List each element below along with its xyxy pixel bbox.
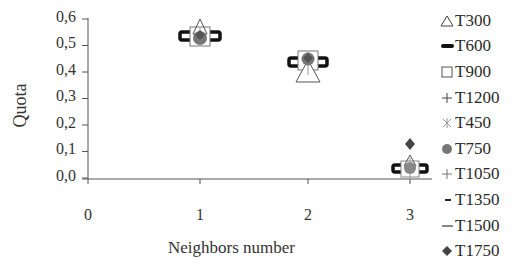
legend-label: T900 [455, 62, 491, 82]
y-tick-label: 0,6 [42, 8, 76, 26]
x-tick-label: 2 [304, 206, 312, 224]
legend-item: T1050 [440, 162, 499, 188]
x-tick-label: 0 [84, 206, 92, 224]
diamond-filled-icon [440, 244, 454, 258]
legend-label: T1500 [455, 216, 499, 236]
legend-label: T1200 [455, 88, 499, 108]
data-cluster-x1 [180, 19, 220, 46]
legend-label: T600 [455, 36, 491, 56]
square-open-icon [440, 65, 454, 79]
short-dash-icon [440, 193, 454, 207]
data-cluster-x2 [289, 51, 327, 82]
y-tick-label: 0,1 [42, 140, 76, 158]
plus-icon [440, 91, 454, 105]
legend-item: T1200 [440, 85, 499, 111]
asterisk-icon [440, 116, 454, 130]
y-axis-label: Quota [10, 84, 31, 128]
circle-filled-icon [440, 142, 454, 156]
plus-icon [440, 167, 454, 181]
legend-item: T1750 [440, 238, 499, 264]
legend-label: T450 [455, 113, 491, 133]
y-tick-label: 0,2 [42, 114, 76, 132]
y-tick-label: 0,5 [42, 34, 76, 52]
legend-item: T600 [440, 34, 499, 60]
y-tick-marks [82, 19, 88, 178]
y-tick-label: 0,4 [42, 61, 76, 79]
legend-item: T1350 [440, 187, 499, 213]
legend-label: T750 [455, 139, 491, 159]
long-dash-icon [440, 219, 454, 233]
y-tick-label: 0,3 [42, 87, 76, 105]
legend-label: T1750 [455, 241, 499, 261]
x-tick-label: 3 [406, 206, 414, 224]
legend-label: T1050 [455, 164, 499, 184]
x-tick-marks [88, 179, 410, 184]
x-axis-label: Neighbors number [168, 238, 295, 258]
data-cluster-x3 [393, 138, 427, 183]
legend-item: T300 [440, 8, 499, 34]
legend-label: T300 [455, 11, 491, 31]
legend-item: T1500 [440, 213, 499, 239]
legend-item: T900 [440, 59, 499, 85]
legend: T300 T600 T900 T1200 T450 T750 T1050 T13… [440, 8, 499, 264]
x-tick-label: 1 [196, 206, 204, 224]
triangle-open-icon [440, 14, 454, 28]
y-tick-label: 0,0 [42, 167, 76, 185]
legend-item: T450 [440, 110, 499, 136]
legend-item: T750 [440, 136, 499, 162]
legend-label: T1350 [455, 190, 499, 210]
thick-dash-icon [440, 39, 454, 53]
